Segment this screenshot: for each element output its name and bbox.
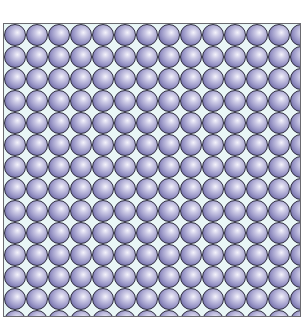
sphere <box>4 112 26 134</box>
sphere <box>158 266 180 288</box>
sphere <box>246 134 268 156</box>
sphere <box>224 200 246 222</box>
sphere <box>268 178 290 200</box>
sphere <box>246 266 268 288</box>
sphere <box>4 24 26 46</box>
sphere <box>202 68 224 90</box>
sphere <box>114 222 136 244</box>
sphere <box>92 200 114 222</box>
sphere <box>202 24 224 46</box>
sphere <box>114 134 136 156</box>
sphere <box>4 46 26 68</box>
sphere <box>202 112 224 134</box>
sphere <box>48 24 70 46</box>
sphere <box>224 178 246 200</box>
sphere <box>48 310 70 317</box>
sphere <box>26 68 48 90</box>
sphere <box>180 310 202 317</box>
sphere <box>158 310 180 317</box>
sphere-lattice-frame <box>3 23 301 317</box>
sphere <box>92 178 114 200</box>
sphere <box>202 266 224 288</box>
sphere <box>290 244 301 266</box>
sphere <box>268 200 290 222</box>
sphere <box>158 178 180 200</box>
sphere <box>4 310 26 317</box>
sphere <box>92 266 114 288</box>
sphere <box>180 134 202 156</box>
sphere <box>70 90 92 112</box>
sphere <box>268 112 290 134</box>
sphere <box>4 90 26 112</box>
sphere <box>26 24 48 46</box>
sphere <box>48 266 70 288</box>
sphere <box>114 266 136 288</box>
sphere <box>246 90 268 112</box>
sphere <box>48 46 70 68</box>
sphere <box>224 46 246 68</box>
sphere <box>136 68 158 90</box>
sphere <box>290 24 301 46</box>
sphere <box>136 200 158 222</box>
sphere <box>114 90 136 112</box>
sphere <box>202 244 224 266</box>
sphere <box>224 134 246 156</box>
sphere <box>4 266 26 288</box>
sphere <box>268 288 290 310</box>
sphere <box>114 46 136 68</box>
sphere <box>290 310 301 317</box>
sphere <box>268 134 290 156</box>
sphere <box>136 134 158 156</box>
sphere <box>136 310 158 317</box>
sphere <box>114 244 136 266</box>
sphere <box>136 24 158 46</box>
sphere <box>202 46 224 68</box>
sphere <box>290 156 301 178</box>
sphere <box>202 156 224 178</box>
sphere <box>92 24 114 46</box>
sphere <box>26 46 48 68</box>
sphere <box>92 46 114 68</box>
sphere <box>48 68 70 90</box>
sphere <box>224 288 246 310</box>
sphere <box>70 24 92 46</box>
sphere <box>180 90 202 112</box>
sphere <box>290 68 301 90</box>
sphere <box>180 112 202 134</box>
sphere <box>158 200 180 222</box>
sphere <box>4 222 26 244</box>
sphere <box>246 156 268 178</box>
sphere <box>246 310 268 317</box>
sphere <box>224 68 246 90</box>
sphere <box>202 222 224 244</box>
sphere <box>48 156 70 178</box>
sphere <box>26 156 48 178</box>
sphere <box>268 156 290 178</box>
sphere <box>26 288 48 310</box>
sphere <box>26 266 48 288</box>
sphere <box>158 46 180 68</box>
sphere <box>290 266 301 288</box>
sphere <box>290 46 301 68</box>
sphere <box>268 24 290 46</box>
sphere <box>158 112 180 134</box>
sphere <box>246 200 268 222</box>
sphere <box>92 310 114 317</box>
sphere <box>114 288 136 310</box>
sphere <box>268 310 290 317</box>
sphere <box>70 266 92 288</box>
sphere <box>158 134 180 156</box>
sphere <box>114 178 136 200</box>
sphere <box>246 288 268 310</box>
sphere <box>92 112 114 134</box>
sphere <box>268 266 290 288</box>
sphere <box>224 266 246 288</box>
sphere <box>70 200 92 222</box>
sphere <box>224 156 246 178</box>
sphere <box>48 288 70 310</box>
sphere <box>48 134 70 156</box>
sphere <box>246 46 268 68</box>
sphere <box>4 68 26 90</box>
sphere <box>246 178 268 200</box>
sphere <box>4 156 26 178</box>
